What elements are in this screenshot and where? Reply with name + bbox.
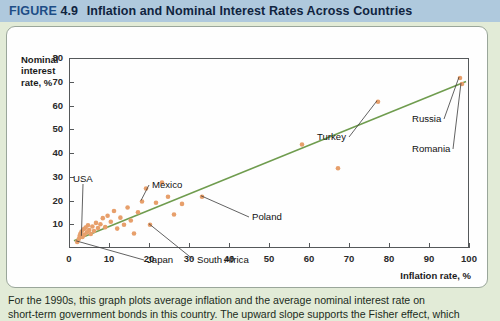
caption-line-1: For the 1990s, this graph plots average … bbox=[8, 294, 425, 306]
y-tick-mark bbox=[69, 129, 74, 130]
data-point bbox=[129, 218, 134, 223]
data-point bbox=[109, 219, 114, 224]
y-tick-label: 10 bbox=[43, 218, 63, 229]
x-tick-label: 60 bbox=[297, 253, 321, 264]
data-point bbox=[118, 215, 123, 220]
x-tick-label: 80 bbox=[377, 253, 401, 264]
x-tick-mark bbox=[309, 243, 310, 248]
x-tick-mark bbox=[429, 243, 430, 248]
x-tick-label: 10 bbox=[97, 253, 121, 264]
y-tick-mark bbox=[69, 224, 74, 225]
x-tick-label: 100 bbox=[457, 253, 481, 264]
x-tick-mark bbox=[269, 243, 270, 248]
data-point bbox=[122, 222, 127, 227]
y-tick-label: 70 bbox=[43, 76, 63, 87]
data-point bbox=[105, 213, 110, 218]
figure-number: 4.9 bbox=[60, 4, 78, 18]
y-tick-label: 80 bbox=[43, 52, 63, 63]
data-point bbox=[180, 202, 185, 207]
figure-header-text: FIGURE 4.9 Inflation and Nominal Interes… bbox=[0, 4, 412, 18]
data-point bbox=[136, 210, 141, 215]
callout-label-turkey: Turkey bbox=[317, 131, 346, 142]
y-tick-mark bbox=[69, 106, 74, 107]
data-point bbox=[460, 82, 465, 87]
data-point bbox=[166, 194, 171, 199]
callout-label-usa: USA bbox=[73, 173, 93, 184]
figure-word: FIGURE bbox=[9, 4, 57, 18]
x-tick-mark bbox=[149, 243, 150, 248]
data-point bbox=[90, 224, 95, 229]
data-point bbox=[140, 199, 145, 204]
data-point bbox=[94, 221, 99, 226]
data-point bbox=[458, 76, 463, 81]
data-point bbox=[336, 166, 341, 171]
y-tick-mark bbox=[69, 82, 74, 83]
callout-label-romania: Romania bbox=[412, 143, 450, 154]
x-tick-mark bbox=[229, 243, 230, 248]
data-point bbox=[132, 231, 137, 236]
y-tick-label: 40 bbox=[43, 147, 63, 158]
data-point bbox=[172, 212, 177, 217]
data-point bbox=[101, 216, 106, 221]
figure-caption: For the 1990s, this graph plots average … bbox=[8, 294, 478, 321]
y-tick-label: 30 bbox=[43, 171, 63, 182]
x-tick-mark bbox=[389, 243, 390, 248]
x-tick-label: 0 bbox=[57, 253, 81, 264]
y-tick-mark bbox=[69, 201, 74, 202]
data-point bbox=[86, 223, 91, 228]
figure-title: Inflation and Nominal Interest Rates Acr… bbox=[82, 4, 413, 18]
y-tick-mark bbox=[69, 58, 74, 59]
callout-label-japan: Japan bbox=[147, 254, 173, 265]
data-point bbox=[98, 222, 103, 227]
figure-header-bar: FIGURE 4.9 Inflation and Nominal Interes… bbox=[0, 0, 500, 22]
x-tick-mark bbox=[349, 243, 350, 248]
data-point bbox=[154, 200, 159, 205]
callout-label-south-africa: South Africa bbox=[197, 254, 249, 265]
figure-page: FIGURE 4.9 Inflation and Nominal Interes… bbox=[0, 0, 500, 321]
y-tick-label: 50 bbox=[43, 123, 63, 134]
data-point bbox=[112, 209, 117, 214]
data-point bbox=[376, 99, 381, 104]
x-tick-label: 90 bbox=[417, 253, 441, 264]
x-tick-label: 70 bbox=[337, 253, 361, 264]
data-point bbox=[87, 228, 92, 233]
data-point bbox=[92, 229, 97, 234]
callout-label-poland: Poland bbox=[252, 211, 282, 222]
x-tick-label: 50 bbox=[257, 253, 281, 264]
callout-label-russia: Russia bbox=[412, 113, 441, 124]
caption-line-2: short-term government bonds in this coun… bbox=[8, 308, 478, 321]
data-point bbox=[200, 194, 205, 199]
x-axis-title: Inflation rate, % bbox=[400, 270, 471, 281]
x-tick-mark bbox=[189, 243, 190, 248]
data-point bbox=[125, 205, 130, 210]
chart-area: Nominal interest rate, % 102030405060708… bbox=[7, 27, 489, 289]
data-point bbox=[300, 142, 305, 147]
data-point bbox=[144, 186, 149, 191]
y-tick-label: 20 bbox=[43, 195, 63, 206]
y-tick-label: 60 bbox=[43, 100, 63, 111]
x-tick-mark bbox=[109, 243, 110, 248]
data-point bbox=[115, 226, 120, 231]
callout-label-mexico: Mexico bbox=[152, 179, 182, 190]
figure-card: Nominal interest rate, % 102030405060708… bbox=[6, 26, 488, 288]
data-point bbox=[148, 222, 153, 227]
data-point bbox=[96, 226, 101, 231]
x-tick-mark bbox=[469, 243, 470, 248]
y-tick-mark bbox=[69, 153, 74, 154]
data-point bbox=[103, 225, 108, 230]
